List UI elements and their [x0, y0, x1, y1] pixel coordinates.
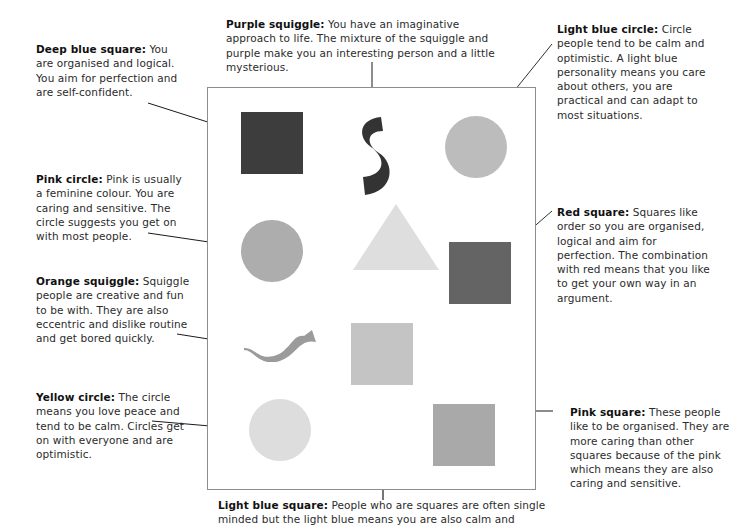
annotation-label: Light blue square:: [218, 499, 328, 511]
shape-light-blue-circle[interactable]: [445, 116, 507, 178]
annotation-label: Orange squiggle:: [36, 275, 139, 287]
shape-light-blue-square[interactable]: [351, 323, 413, 385]
annotation-label: Red square:: [557, 206, 629, 218]
shape-yellow-circle[interactable]: [249, 399, 311, 461]
annotation-deep-blue-square: Deep blue square: You are organised and …: [36, 42, 186, 99]
shape-orange-squiggle[interactable]: [242, 326, 318, 362]
annotation-label: Deep blue square:: [36, 43, 146, 55]
annotation-light-blue-square: Light blue square: People who are square…: [218, 498, 548, 527]
annotation-label: Pink circle:: [36, 173, 103, 185]
annotation-light-blue-circle: Light blue circle: Circle people tend to…: [557, 22, 717, 122]
annotation-pink-square: Pink square: These people like to be org…: [570, 405, 730, 491]
shape-deep-blue-square[interactable]: [241, 112, 303, 174]
annotation-red-square: Red square: Squares like order so you ar…: [557, 205, 717, 305]
shape-triangle[interactable]: [353, 204, 439, 270]
annotation-purple-squiggle: Purple squiggle: You have an imaginative…: [226, 17, 502, 74]
shape-pink-square[interactable]: [433, 404, 495, 466]
annotation-text: Squares like order so you are organised,…: [557, 206, 710, 304]
annotation-text: These people like to be organised. They …: [570, 406, 729, 489]
shape-red-square[interactable]: [449, 242, 511, 304]
annotation-orange-squiggle: Orange squiggle: Squiggle people are cre…: [36, 274, 196, 345]
annotation-pink-circle: Pink circle: Pink is usually a feminine …: [36, 172, 188, 243]
shape-purple-squiggle[interactable]: [351, 113, 395, 199]
annotation-label: Purple squiggle:: [226, 18, 325, 30]
annotation-yellow-circle: Yellow circle: The circle means you love…: [36, 390, 188, 461]
annotation-label: Yellow circle:: [36, 391, 115, 403]
annotation-text: Circle people tend to be calm and optimi…: [557, 23, 706, 121]
shape-pink-circle[interactable]: [241, 220, 303, 282]
annotation-label: Light blue circle:: [557, 23, 658, 35]
annotation-label: Pink square:: [570, 406, 645, 418]
shapes-frame: [207, 87, 536, 490]
